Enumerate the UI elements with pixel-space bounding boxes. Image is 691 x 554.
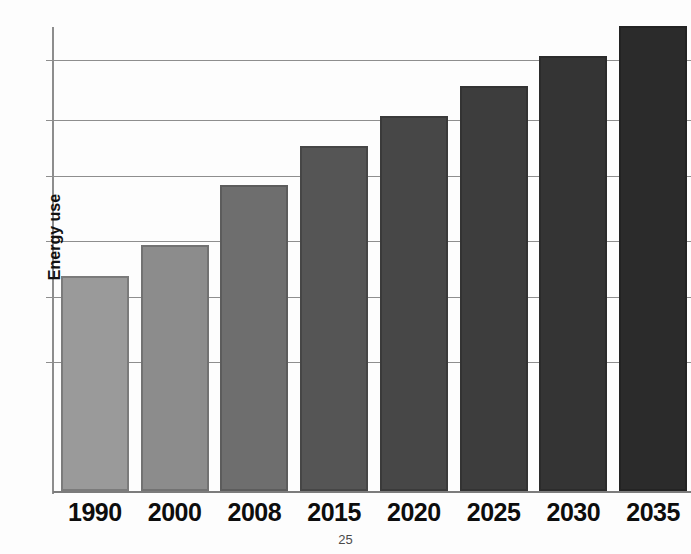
bar-2020[interactable]	[380, 116, 448, 491]
x-axis-label-2000: 2000	[141, 497, 209, 527]
bar-1990[interactable]	[61, 276, 129, 492]
bar-2008[interactable]	[220, 185, 288, 491]
x-axis-label-1990: 1990	[61, 497, 129, 527]
x-axis-label-2025: 2025	[460, 497, 528, 527]
chart-page: World energy use Energy use 199020002008…	[0, 0, 691, 554]
plot-area	[53, 0, 691, 493]
bar-2030[interactable]	[539, 56, 607, 491]
x-axis-label-2008: 2008	[220, 497, 288, 527]
x-axis-label-2015: 2015	[300, 497, 368, 527]
y-axis-label: Energy use	[46, 177, 64, 297]
bar-2015[interactable]	[300, 146, 368, 491]
x-axis-label-2035: 2035	[619, 497, 687, 527]
page-number: 25	[0, 532, 691, 547]
bar-2035[interactable]	[619, 26, 687, 491]
bar-2025[interactable]	[460, 86, 528, 491]
x-axis-label-2030: 2030	[539, 497, 607, 527]
x-axis-tick-labels: 19902000200820152020202520302035	[53, 497, 691, 531]
bar-2000[interactable]	[141, 245, 209, 491]
x-axis-label-2020: 2020	[380, 497, 448, 527]
x-axis-baseline	[53, 491, 691, 493]
